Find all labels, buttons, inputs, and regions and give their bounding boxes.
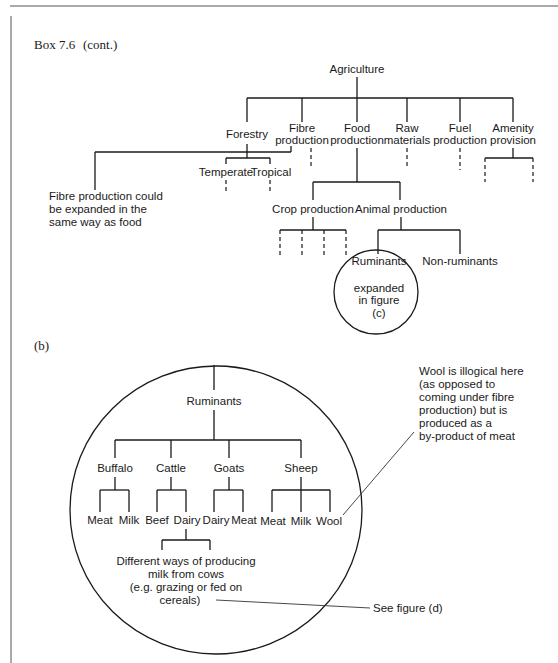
product-buffalo-meat: Meat — [87, 514, 113, 526]
fibre-note-line2: be expanded in the — [49, 203, 147, 215]
node-tropical: Tropical — [251, 166, 291, 178]
node-animal-production: Animal production — [355, 203, 447, 215]
fibre-note-line3: same way as food — [49, 216, 142, 228]
circle-note-line2: in figure — [359, 294, 400, 306]
node-cattle: Cattle — [156, 462, 186, 474]
figure-b-label: (b) — [34, 338, 49, 353]
node-fuel-line1: Fuel — [449, 122, 471, 134]
box-title: Box 7.6 — [34, 37, 76, 52]
node-goats: Goats — [214, 462, 245, 474]
node-temperate: Temperate — [199, 166, 253, 178]
wool-note-line5: produced as a — [419, 417, 492, 429]
node-crop-production: Crop production — [272, 203, 354, 215]
node-buffalo: Buffalo — [97, 462, 133, 474]
wool-note-line6: by-product of meat — [419, 430, 516, 442]
node-sheep: Sheep — [284, 462, 317, 474]
see-figure-leader-line — [216, 600, 370, 608]
agriculture-hierarchy-diagram: Box 7.6 (cont.) Agriculture Forestry Fib… — [0, 0, 558, 663]
expansion-circle-large — [70, 366, 362, 654]
node-non-ruminants: Non-ruminants — [422, 255, 498, 267]
node-amenity-line2: provision — [490, 134, 536, 146]
product-cattle-dairy: Dairy — [174, 514, 201, 526]
node-raw-line1: Raw — [395, 122, 419, 134]
wool-note-line4: production) but is — [419, 404, 507, 416]
node-food-line1: Food — [344, 122, 370, 134]
product-cattle-beef: Beef — [145, 514, 169, 526]
node-fibre-line1: Fibre — [289, 122, 315, 134]
see-figure-d: See figure (d) — [373, 602, 443, 614]
wool-note-line1: Wool is illogical here — [419, 365, 524, 377]
wool-note-line2: (as opposed to — [419, 378, 495, 390]
product-sheep-meat: Meat — [260, 515, 286, 527]
wool-note-leader-line — [343, 432, 414, 515]
circle-note-line3: (c) — [372, 307, 386, 319]
node-raw-line2: materials — [384, 134, 431, 146]
product-goats-dairy: Dairy — [203, 514, 230, 526]
dairy-note-line3: (e.g. grazing or fed on — [130, 581, 243, 593]
circle-note-line1: expanded — [354, 282, 405, 294]
node-agriculture: Agriculture — [330, 63, 385, 75]
node-forestry: Forestry — [226, 128, 268, 140]
fibre-note-line1: Fibre production could — [49, 190, 163, 202]
node-fuel-line2: production — [433, 134, 487, 146]
node-amenity-line1: Amenity — [492, 122, 534, 134]
dairy-note-line2: milk from cows — [148, 568, 224, 580]
box-cont: (cont.) — [83, 37, 117, 52]
dairy-note-line4: cereals) — [160, 594, 201, 606]
product-buffalo-milk: Milk — [119, 514, 140, 526]
wool-note-line3: coming under fibre — [419, 391, 514, 403]
node-fibre-line2: production — [275, 134, 329, 146]
node-food-line2: production — [330, 134, 384, 146]
product-sheep-milk: Milk — [291, 515, 312, 527]
dairy-note-line1: Different ways of producing — [116, 555, 255, 567]
product-sheep-wool: Wool — [316, 515, 342, 527]
product-goats-meat: Meat — [231, 514, 257, 526]
node-ruminants-root: Ruminants — [187, 395, 242, 407]
